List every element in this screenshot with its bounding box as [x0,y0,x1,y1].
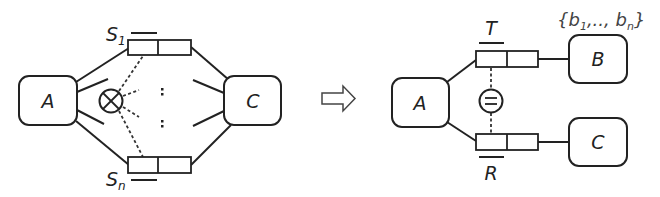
queue-s1-label: S1 [106,23,126,48]
node-c-label: C [246,90,260,112]
dash-otimes-sn [119,111,143,157]
queue-s1: S1 [106,23,191,55]
edge-c-partial-1 [193,80,224,93]
node-c-left: C [224,76,281,125]
edge-a-partial-2 [77,110,104,124]
queue-r: R [476,134,538,184]
node-c-label: C [591,131,605,153]
ellipsis-icon [161,88,164,128]
dash-otimes-s1 [119,56,143,91]
edge-s1-c [191,47,229,80]
edge-sn-c [191,125,231,165]
node-b-label: B [591,48,604,70]
set-annotation: {b1,.., bn} [557,9,645,33]
otimes-icon [100,90,123,113]
edge-a-s1 [76,48,129,82]
node-a-label: A [40,90,55,112]
dash-otimes-partial-2 [123,107,139,117]
hollow-right-arrow-icon [322,86,355,111]
edge-a-sn [76,121,129,165]
dash-otimes-partial-1 [123,90,139,96]
edge-a-partial-1 [77,79,108,92]
diagram-canvas: A C S1 Sn [0,0,660,197]
node-a-label: A [412,92,427,114]
node-a-right: A [392,78,449,127]
equals-circle-icon [480,90,503,113]
queue-sn: Sn [106,157,191,193]
left-diagram: A C S1 Sn [19,23,281,193]
queue-r-label: R [484,162,497,184]
node-c-right: C [569,118,627,166]
edge-c-partial-2 [193,111,224,126]
queue-t-label: T [485,17,498,39]
right-diagram: A B C T R [392,9,645,184]
queue-t: T [476,17,538,67]
node-a-left: A [19,76,77,125]
edge-a-t [447,60,476,82]
node-b: B [569,35,627,83]
queue-sn-label: Sn [106,168,126,193]
edge-a-r [447,122,476,141]
